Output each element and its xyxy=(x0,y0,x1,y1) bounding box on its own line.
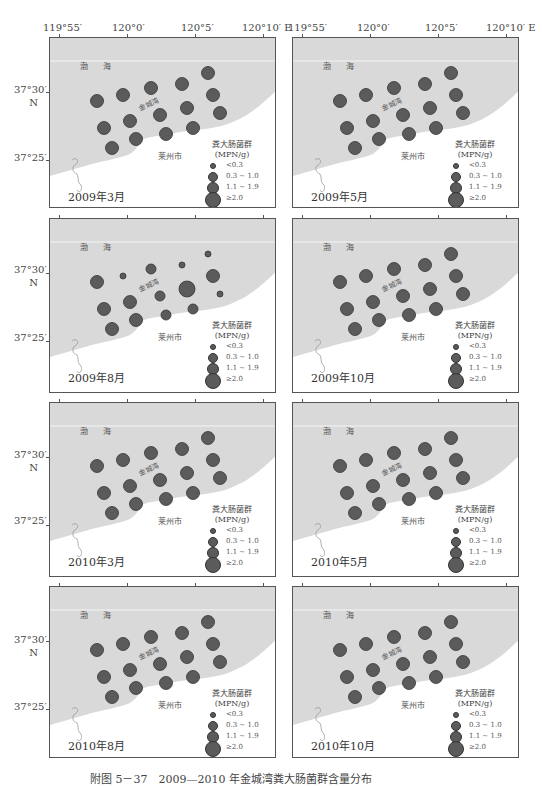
lat-label-30: 37°30′ xyxy=(14,264,46,275)
panel-date-label: 2010年10月 xyxy=(311,737,375,753)
legend: 粪大肠菌群 (MPN/g) <0.3 0.3 ~ 1.0 1.1 ~ 1.9 ≥… xyxy=(202,140,262,204)
legend: 粪大肠菌群 (MPN/g) <0.3 0.3 ~ 1.0 1.1 ~ 1.9 ≥… xyxy=(202,689,262,753)
lon-label-left-3: 120°5′ xyxy=(181,22,214,33)
lat-label-30: 37°30′ xyxy=(14,449,46,460)
legend-item: 0.3 ~ 1.0 xyxy=(202,720,262,731)
station-dot xyxy=(430,122,443,135)
bohai-sea-label: 渤 海 xyxy=(323,241,360,252)
axis-tick xyxy=(263,34,264,37)
map-panel-2009年3月: 渤 海 金城湾 莱州市 2009年3月 粪大肠菌群 (MPN/g) <0.3 0… xyxy=(49,37,276,208)
station-dot xyxy=(160,128,173,141)
laizhou-city-label: 莱州市 xyxy=(401,699,425,710)
map-panel-2010年8月: 渤 海 金城湾 莱州市 2010年8月 粪大肠菌群 (MPN/g) <0.3 0… xyxy=(49,586,276,758)
station-dot xyxy=(154,474,167,487)
lat-label-n: N xyxy=(14,277,38,288)
lon-label-left-4: 120°10′ E xyxy=(242,22,292,33)
station-dot xyxy=(388,447,401,460)
station-dot xyxy=(202,67,215,80)
station-dot xyxy=(457,472,470,485)
station-dot xyxy=(367,480,380,493)
lat-label-n: N xyxy=(14,462,38,473)
legend-title: 粪大肠菌群 xyxy=(445,505,505,515)
station-dot xyxy=(187,671,200,684)
axis-tick xyxy=(195,34,196,37)
legend-item: 0.3 ~ 1.0 xyxy=(202,352,262,363)
legend-unit: (MPN/g) xyxy=(202,331,262,341)
laizhou-city-label: 莱州市 xyxy=(401,331,425,342)
legend-item: <0.3 xyxy=(202,341,262,352)
legend-item: <0.3 xyxy=(445,525,505,536)
legend-item: <0.3 xyxy=(445,160,505,171)
bohai-sea-label: 渤 海 xyxy=(323,609,360,620)
legend-dot-icon xyxy=(448,741,464,757)
axis-tick xyxy=(59,583,60,586)
axis-tick xyxy=(370,34,371,37)
bohai-sea-label: 渤 海 xyxy=(323,425,360,436)
lon-label-right-1: 119°55′ xyxy=(288,22,327,33)
legend-item: 0.3 ~ 1.0 xyxy=(202,171,262,182)
station-dot xyxy=(367,115,380,128)
station-dot xyxy=(154,109,167,122)
station-dot xyxy=(124,296,137,309)
station-dot xyxy=(450,454,463,467)
map-panel-2010年5月: 渤 海 金城湾 莱州市 2010年5月 粪大肠菌群 (MPN/g) <0.3 0… xyxy=(292,402,519,577)
legend-title: 粪大肠菌群 xyxy=(445,140,505,150)
station-dot xyxy=(419,259,432,272)
legend-title: 粪大肠菌群 xyxy=(202,321,262,331)
station-dot xyxy=(179,281,195,297)
lat-label-n: N xyxy=(14,97,38,108)
station-dot xyxy=(154,658,167,671)
station-dot xyxy=(403,493,416,506)
station-dot xyxy=(130,314,143,327)
station-dot xyxy=(373,682,386,695)
station-dot xyxy=(130,682,143,695)
station-dot xyxy=(445,616,458,629)
map-panel-2009年10月: 渤 海 金城湾 莱州市 2009年10月 粪大肠菌群 (MPN/g) <0.3 … xyxy=(292,218,519,393)
station-dot xyxy=(334,276,347,289)
axis-tick xyxy=(127,583,128,586)
legend-item: 0.3 ~ 1.0 xyxy=(445,352,505,363)
station-dot xyxy=(419,78,432,91)
station-dot xyxy=(388,631,401,644)
station-dot xyxy=(341,671,354,684)
station-dot xyxy=(117,454,130,467)
station-dot xyxy=(106,142,119,155)
station-dot xyxy=(430,671,443,684)
panel-date-label: 2010年8月 xyxy=(68,737,125,753)
axis-tick xyxy=(506,583,507,586)
legend-dot-icon xyxy=(205,741,221,757)
station-dot xyxy=(91,276,104,289)
station-dot xyxy=(360,89,373,102)
map-panel-2010年3月: 渤 海 金城湾 莱州市 2010年3月 粪大肠菌群 (MPN/g) <0.3 0… xyxy=(49,402,276,577)
station-dot xyxy=(205,251,211,257)
axis-tick xyxy=(127,215,128,218)
station-dot xyxy=(334,95,347,108)
station-dot xyxy=(397,474,410,487)
station-dot xyxy=(388,82,401,95)
axis-tick xyxy=(59,34,60,37)
station-dot xyxy=(403,309,416,322)
axis-tick xyxy=(127,34,128,37)
axis-tick xyxy=(438,399,439,402)
bohai-sea-label: 渤 海 xyxy=(80,425,117,436)
axis-tick xyxy=(438,215,439,218)
axis-tick xyxy=(127,399,128,402)
axis-tick xyxy=(46,641,49,642)
legend: 粪大肠菌群 (MPN/g) <0.3 0.3 ~ 1.0 1.1 ~ 1.9 ≥… xyxy=(202,505,262,569)
station-dot xyxy=(360,270,373,283)
axis-tick xyxy=(506,34,507,37)
legend: 粪大肠菌群 (MPN/g) <0.3 0.3 ~ 1.0 1.1 ~ 1.9 ≥… xyxy=(202,321,262,385)
station-dot xyxy=(130,133,143,146)
legend-dot-icon xyxy=(448,192,464,208)
lat-label-30: 37°30′ xyxy=(14,84,46,95)
station-dot xyxy=(161,310,171,320)
legend-unit: (MPN/g) xyxy=(202,515,262,525)
axis-tick xyxy=(46,273,49,274)
legend-item: ≥2.0 xyxy=(445,193,505,204)
station-dot xyxy=(450,270,463,283)
axis-tick xyxy=(46,525,49,526)
station-dot xyxy=(367,664,380,677)
legend-unit: (MPN/g) xyxy=(445,150,505,160)
station-dot xyxy=(430,487,443,500)
axis-tick xyxy=(438,583,439,586)
